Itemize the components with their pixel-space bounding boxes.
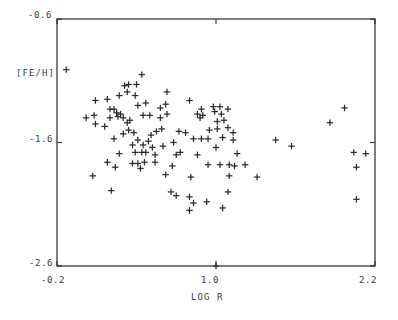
data-point-marker [102,123,108,129]
data-point-marker [145,138,151,144]
data-point-marker [169,163,175,169]
data-point-marker [164,111,170,117]
data-point-marker [139,71,145,77]
data-point-marker [230,137,236,143]
data-point-marker [162,171,168,177]
data-point-marker [221,117,227,123]
data-point-marker [149,144,155,150]
data-point-marker [272,137,278,143]
data-point-marker [140,142,146,148]
data-point-marker [204,199,210,205]
axes-box [57,19,375,266]
data-point-marker [213,144,219,150]
data-point-marker [254,174,260,180]
data-point-marker [363,150,369,156]
data-point-marker [111,136,117,142]
x-axis-title: LOG R [191,292,224,302]
data-point-marker [63,66,69,72]
data-point-marker [219,205,225,211]
data-point-marker [116,150,122,156]
data-point-marker [170,139,176,145]
data-point-marker [152,159,158,165]
x-tick-label-mid: 1.0 [201,275,219,285]
data-point-marker [182,129,188,135]
data-point-marker [234,150,240,156]
data-point-marker [214,126,220,132]
data-point-marker [353,196,359,202]
data-point-marker [213,263,219,269]
data-point-marker [152,152,158,158]
data-point-marker [143,149,149,155]
data-point-marker [164,89,170,95]
data-point-marker [168,189,174,195]
data-point-marker [205,136,211,142]
plot-frame [57,19,375,266]
data-point-marker [135,102,141,108]
data-point-marker [230,129,236,135]
data-point-marker [225,106,231,112]
data-point-marker [186,207,192,213]
x-tick-label-right: 2.2 [359,275,377,285]
data-point-marker [186,194,192,200]
data-point-marker [92,121,98,127]
data-point-marker [83,115,89,121]
data-point-marker [124,89,130,95]
data-point-marker [148,132,154,138]
data-point-marker [288,143,294,149]
data-point-marker [211,108,217,114]
data-point-marker [90,173,96,179]
data-point-marker [190,136,196,142]
data-point-marker [194,152,200,158]
data-point-marker [116,92,122,98]
data-point-marker [231,163,237,169]
data-point-marker [104,159,110,165]
data-point-marker [226,162,232,168]
data-point-marker [327,120,333,126]
data-point-marker [112,164,118,170]
data-point-marker [121,82,127,88]
plot-canvas [0,0,398,320]
data-point-marker [120,131,126,137]
data-point-marker [205,162,211,168]
data-point-marker [219,134,225,140]
data-point-marker [190,200,196,206]
data-point-marker [217,162,223,168]
data-point-marker [225,124,231,130]
data-point-marker [143,100,149,106]
y-tick-label-top: -0.6 [28,10,52,20]
data-point-marker [141,159,147,165]
data-point-marker [341,105,347,111]
data-point-marker [147,112,153,118]
data-point-marker [198,136,204,142]
data-point-marker [132,92,138,98]
data-point-marker [140,112,146,118]
data-point-marker [133,81,139,87]
y-tick-label-bottom: -2.6 [29,258,53,268]
data-point-marker [162,101,168,107]
data-point-marker [186,97,192,103]
data-point-marker [176,128,182,134]
data-point-marker [104,96,110,102]
y-axis-title: [FE/H] [16,68,55,78]
data-point-marker [218,111,224,117]
scatter-plot-figure: -0.6 -1.6 -2.6 -0.2 1.0 2.2 [FE/H] LOG R [0,0,398,320]
data-point-marker [107,115,113,121]
data-point-marker [91,112,97,118]
axis-ticks [57,19,375,266]
data-point-marker [214,118,220,124]
data-point-marker [132,149,138,155]
data-points [63,66,369,269]
data-point-marker [188,174,194,180]
data-point-marker [225,189,231,195]
data-point-marker [157,115,163,121]
data-point-marker [129,142,135,148]
data-point-marker [160,143,166,149]
data-point-marker [157,105,163,111]
x-tick-label-left: -0.2 [41,275,65,285]
data-point-marker [217,103,223,109]
data-point-marker [125,81,131,87]
data-point-marker [206,127,212,133]
data-point-marker [92,97,98,103]
data-point-marker [198,106,204,112]
data-point-marker [173,192,179,198]
